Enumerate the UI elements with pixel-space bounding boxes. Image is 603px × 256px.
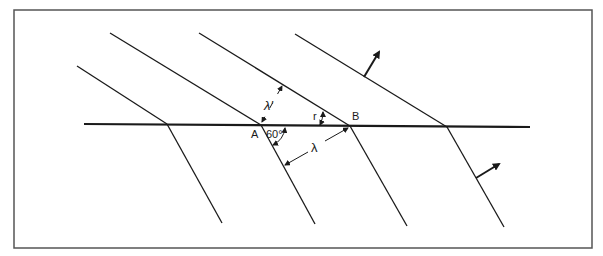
refracted-wavefront — [447, 127, 504, 227]
interface-line — [84, 124, 530, 127]
incidence-angle-label: 60° — [266, 128, 283, 140]
incident-direction-arrow-icon — [364, 52, 379, 77]
incident-wavefront — [199, 33, 350, 126]
incident-wavefronts — [77, 33, 447, 127]
refraction-angle-label: r — [313, 110, 317, 122]
figure-frame — [14, 10, 592, 248]
point-b-label: B — [352, 110, 359, 122]
incident-wavelength-label: λ' — [263, 98, 273, 113]
refraction-diagram: λ' λ 60° r A B — [0, 0, 603, 256]
refracted-wavefront — [167, 124, 222, 223]
refracted-wavefront — [350, 126, 407, 226]
refracted-direction-arrow-icon — [476, 164, 499, 178]
refraction-angle-arc — [320, 112, 323, 125]
incident-wavefront — [295, 34, 447, 127]
refracted-wavelength-dimension-b — [325, 128, 348, 141]
refracted-wavelength-label: λ — [311, 140, 318, 155]
refracted-wavefronts — [167, 124, 504, 227]
incident-wavefront — [77, 66, 167, 124]
incident-wavefront — [110, 33, 261, 125]
refracted-wavelength-dimension-a — [285, 152, 308, 165]
point-a-label: A — [251, 128, 259, 140]
